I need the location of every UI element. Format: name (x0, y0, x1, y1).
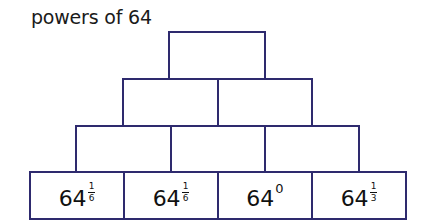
brick-row4-2[interactable]: 64 1 6 (123, 171, 219, 220)
exponent-numerator: 1 (182, 182, 190, 193)
power-expression: 64 1 6 (59, 182, 96, 210)
brick-row3-1[interactable] (75, 125, 172, 173)
brick-row4-3[interactable]: 64 0 (217, 171, 313, 220)
brick-row2-1[interactable] (122, 78, 219, 127)
integer-exponent: 0 (275, 182, 283, 195)
brick-row3-3[interactable] (264, 125, 360, 173)
brick-row1-1[interactable] (168, 31, 266, 80)
exponent-denominator: 6 (89, 193, 95, 203)
exponent-numerator: 1 (88, 182, 96, 193)
brick-row4-4[interactable]: 64 1 3 (311, 171, 407, 220)
power-expression: 64 0 (246, 182, 283, 210)
fraction-exponent: 1 6 (88, 182, 96, 203)
base-value: 64 (59, 182, 87, 210)
brick-row2-2[interactable] (217, 78, 313, 127)
exponent-denominator: 6 (183, 193, 189, 203)
fraction-exponent: 1 3 (370, 182, 378, 203)
brick-row3-2[interactable] (170, 125, 266, 173)
base-value: 64 (246, 182, 274, 210)
brick-row4-1[interactable]: 64 1 6 (29, 171, 125, 220)
base-value: 64 (153, 182, 181, 210)
base-value: 64 (341, 182, 369, 210)
exponent-numerator: 1 (370, 182, 378, 193)
exponent-denominator: 3 (371, 193, 377, 203)
power-expression: 64 1 6 (153, 182, 190, 210)
fraction-exponent: 1 6 (182, 182, 190, 203)
power-expression: 64 1 3 (341, 182, 378, 210)
diagram-title: powers of 64 (31, 6, 152, 28)
